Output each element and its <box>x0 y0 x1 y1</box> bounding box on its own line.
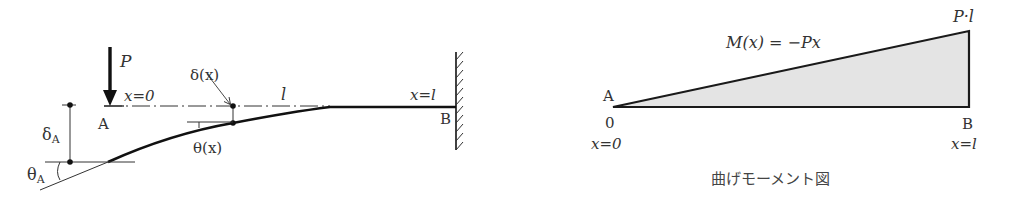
fixed-end-coord-label: x=l <box>410 86 436 104</box>
point-A-coord: x=0 <box>591 135 622 153</box>
fixed-wall-icon <box>456 52 463 150</box>
load-label: P <box>119 51 132 71</box>
point-A-value: 0 <box>605 114 615 132</box>
fixed-end-label: B <box>440 110 451 128</box>
length-label: l <box>281 85 286 104</box>
tangent-line-A <box>40 162 108 190</box>
max-moment-label: P·l <box>952 7 974 26</box>
origin-label: x=0 <box>124 87 155 105</box>
bending-moment-diagram: M(x) = −Px P·l A 0 x=0 B x=l 曲げモーメント図 <box>591 7 977 188</box>
diagram-caption: 曲げモーメント図 <box>711 170 830 188</box>
load-arrow-icon <box>103 47 117 106</box>
point-B-label: B <box>962 115 973 133</box>
beam-diagrams: P x=0 A l x=l B δ(x) θ(x) δA θA M(x) = −… <box>0 0 1016 200</box>
slope-A-label: θA <box>27 165 46 186</box>
free-end-label: A <box>97 115 109 133</box>
slope-x-label: θ(x) <box>193 139 222 157</box>
moment-equation: M(x) = −Px <box>725 33 821 52</box>
cantilever-diagram: P x=0 A l x=l B δ(x) θ(x) δA θA <box>27 47 463 190</box>
slope-A-arc <box>58 162 61 180</box>
point-B-coord: x=l <box>951 135 977 153</box>
point-A-label: A <box>602 87 614 105</box>
deflected-beam <box>108 107 456 162</box>
deflection-x-label: δ(x) <box>190 66 219 84</box>
deflection-A-label: δA <box>42 125 61 146</box>
